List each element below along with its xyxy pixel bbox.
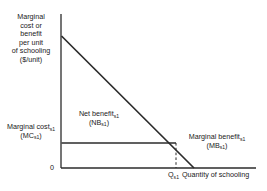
marginal-benefit-subscript: s1 [240, 136, 245, 142]
net-benefit-subscript: s1 [114, 113, 119, 119]
marginal-benefit-curve-label: Marginal benefits1 (MBs1) [171, 133, 263, 150]
marginal-cost-symbol-open: (MC [20, 131, 34, 140]
marginal-cost-symbol-close: ) [39, 131, 41, 140]
marginal-benefit-symbol-close: ) [225, 141, 227, 150]
net-benefit-symbol-open: (NB [89, 118, 101, 127]
x-axis-label: Quantity of schooling [182, 171, 249, 180]
quantity-point-label: Qs1 [168, 171, 179, 180]
y-axis-label: Marginal cost or benefit per unit of sch… [2, 13, 60, 65]
net-benefit-region-label: Net benefits1 (NBs1) [68, 110, 130, 127]
schooling-marginal-analysis-figure: Marginal cost or benefit per unit of sch… [0, 0, 267, 191]
marginal-benefit-symbol-open: (MB [207, 141, 220, 150]
marginal-benefit-symbol-subscript: s1 [220, 144, 225, 150]
marginal-cost-subscript: s1 [50, 126, 55, 132]
quantity-point-subscript: s1 [174, 174, 179, 180]
quantity-point-symbol: Q [168, 170, 174, 179]
origin-label: 0 [50, 164, 54, 173]
marginal-cost-symbol-subscript: s1 [34, 134, 39, 140]
y-axis-label-line-6: ($/unit) [20, 55, 42, 64]
marginal-cost-axis-label: Marginal costs1 (MCs1) [2, 123, 60, 140]
net-benefit-symbol-subscript: s1 [101, 121, 106, 127]
net-benefit-symbol-close: ) [107, 118, 109, 127]
